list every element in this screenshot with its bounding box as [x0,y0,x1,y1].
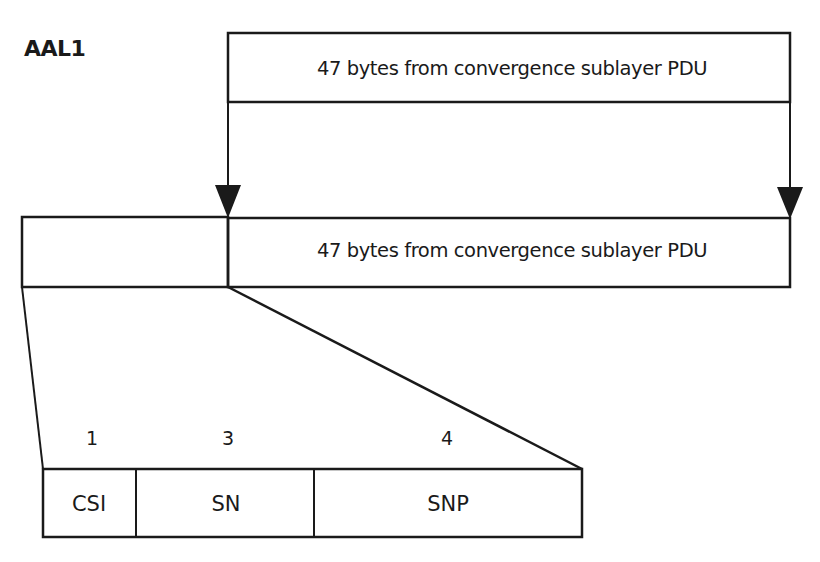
bits-sn: 3 [222,427,234,449]
field-csi: CSI [72,492,106,516]
diagram-title: AAL1 [24,36,85,61]
cell-payload-label: 47 bytes from convergence sublayer PDU [317,239,707,262]
left-arrow-head-icon [215,185,241,218]
bits-csi: 1 [86,427,98,449]
bits-snp: 4 [441,427,453,449]
source-box-label: 47 bytes from convergence sublayer PDU [317,57,707,80]
field-snp: SNP [427,492,469,516]
field-sn: SN [211,492,240,516]
cell-header-box [22,217,228,287]
expansion-line-left [22,287,43,469]
right-arrow-head-icon [777,187,803,219]
header-breakdown-box [43,469,582,537]
diagram-canvas [0,0,820,562]
expansion-line-right [228,287,582,469]
